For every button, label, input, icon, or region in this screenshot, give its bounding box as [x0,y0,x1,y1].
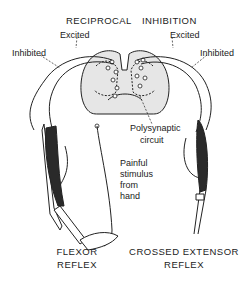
label-from: from [120,180,138,190]
label-circuit: circuit [140,135,164,145]
label-polysynaptic: Polysynaptic [130,123,181,133]
spinal-cord [81,51,169,114]
label-painful: Painful [120,158,148,168]
label-inhibited-right: Inhibited [200,48,234,58]
caption-flexor-line2: REFLEX [52,259,102,271]
label-stimulus: stimulus [120,169,153,179]
title-reciprocal: RECIPROCAL [66,16,132,26]
reflex-diagram [0,0,249,282]
left-arm [42,124,118,250]
label-hand: hand [120,191,140,201]
label-excited-left: Excited [60,30,90,40]
caption-flexor-line1: FLEXOR [52,246,102,258]
label-inhibited-left: Inhibited [12,48,46,58]
caption-crossed-line1: CROSSED EXTENSOR [128,246,240,258]
title-inhibition: INHIBITION [142,16,197,26]
label-excited-right: Excited [170,30,200,40]
caption-crossed-line2: REFLEX [128,259,240,271]
